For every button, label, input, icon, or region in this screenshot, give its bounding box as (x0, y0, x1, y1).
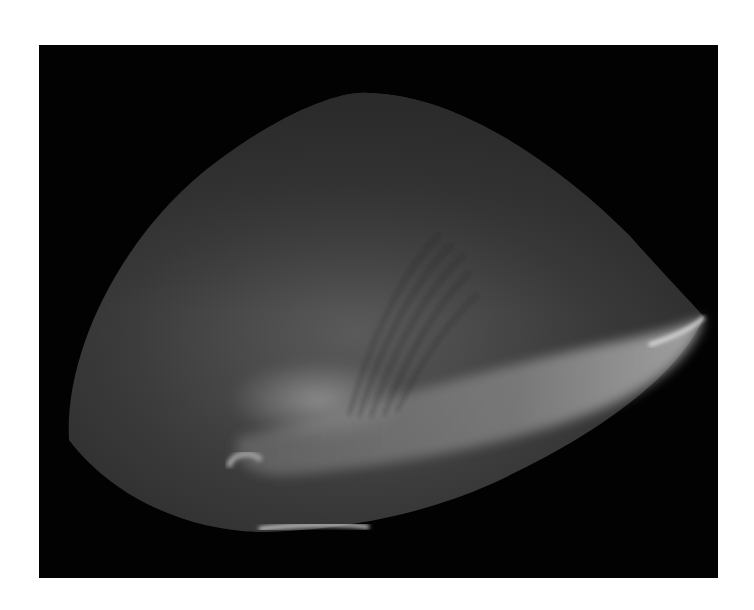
photo-frame (39, 45, 718, 578)
translucent-object-photo (39, 45, 718, 578)
